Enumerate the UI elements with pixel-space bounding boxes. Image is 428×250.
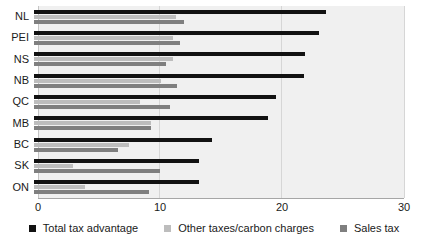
- bar-group-ns: NS: [0, 49, 404, 70]
- bar-stack: [34, 27, 404, 48]
- bar-group-on: ON: [0, 177, 404, 198]
- bar-total-tax-advantage: [34, 74, 304, 78]
- bar-other-taxes-carbon-charges: [34, 36, 173, 40]
- bar-stack: [34, 49, 404, 70]
- legend-label: Other taxes/carbon charges: [178, 223, 314, 234]
- category-label: NS: [0, 54, 34, 65]
- bar-group-bc: BC: [0, 134, 404, 155]
- x-tick-label: 20: [276, 202, 288, 213]
- category-label: MB: [0, 118, 34, 129]
- grouped-bar-chart: NLPEINSNBQCMBBCSKON 0102030 Total tax ad…: [0, 0, 428, 250]
- legend-item-sales-tax: Sales tax: [340, 223, 399, 234]
- bar-group-pei: PEI: [0, 27, 404, 48]
- bar-sales-tax: [34, 169, 160, 173]
- bar-other-taxes-carbon-charges: [34, 164, 73, 168]
- x-tick-label: 0: [35, 202, 41, 213]
- bar-other-taxes-carbon-charges: [34, 79, 161, 83]
- bar-sales-tax: [34, 148, 118, 152]
- bar-total-tax-advantage: [34, 180, 199, 184]
- category-label: BC: [0, 139, 34, 150]
- category-label: PEI: [0, 32, 34, 43]
- bar-group-nl: NL: [0, 6, 404, 27]
- legend-swatch-icon: [29, 225, 36, 232]
- bar-other-taxes-carbon-charges: [34, 143, 129, 147]
- bar-total-tax-advantage: [34, 159, 199, 163]
- x-axis: 0102030: [38, 202, 404, 216]
- bar-sales-tax: [34, 41, 180, 45]
- bar-other-taxes-carbon-charges: [34, 15, 176, 19]
- category-label: SK: [0, 160, 34, 171]
- bar-sales-tax: [34, 62, 166, 66]
- legend-swatch-icon: [164, 225, 171, 232]
- bar-total-tax-advantage: [34, 10, 326, 14]
- bar-sales-tax: [34, 84, 177, 88]
- bar-stack: [34, 113, 404, 134]
- bar-group-nb: NB: [0, 70, 404, 91]
- bar-rows: NLPEINSNBQCMBBCSKON: [0, 6, 404, 198]
- bar-total-tax-advantage: [34, 116, 268, 120]
- bar-group-mb: MB: [0, 113, 404, 134]
- bar-sales-tax: [34, 190, 149, 194]
- bar-total-tax-advantage: [34, 52, 305, 56]
- bar-sales-tax: [34, 126, 151, 130]
- bar-sales-tax: [34, 105, 170, 109]
- legend-label: Sales tax: [354, 223, 399, 234]
- x-tick-label: 10: [154, 202, 166, 213]
- category-label: NB: [0, 75, 34, 86]
- legend: Total tax advantageOther taxes/carbon ch…: [0, 223, 428, 234]
- category-label: ON: [0, 182, 34, 193]
- legend-item-other-taxes-carbon-charges: Other taxes/carbon charges: [164, 223, 314, 234]
- bar-group-qc: QC: [0, 91, 404, 112]
- category-label: QC: [0, 96, 34, 107]
- bar-stack: [34, 134, 404, 155]
- bar-stack: [34, 70, 404, 91]
- legend-label: Total tax advantage: [43, 223, 138, 234]
- legend-item-total-tax-advantage: Total tax advantage: [29, 223, 138, 234]
- bar-stack: [34, 155, 404, 176]
- bar-total-tax-advantage: [34, 138, 212, 142]
- bar-total-tax-advantage: [34, 95, 276, 99]
- category-label: NL: [0, 11, 34, 22]
- bar-stack: [34, 6, 404, 27]
- bar-stack: [34, 91, 404, 112]
- bar-other-taxes-carbon-charges: [34, 185, 85, 189]
- bar-other-taxes-carbon-charges: [34, 57, 173, 61]
- legend-swatch-icon: [340, 225, 347, 232]
- bar-total-tax-advantage: [34, 31, 319, 35]
- bar-sales-tax: [34, 20, 184, 24]
- bar-other-taxes-carbon-charges: [34, 121, 151, 125]
- bar-other-taxes-carbon-charges: [34, 100, 140, 104]
- bar-stack: [34, 177, 404, 198]
- bar-group-sk: SK: [0, 155, 404, 176]
- x-tick-label: 30: [398, 202, 410, 213]
